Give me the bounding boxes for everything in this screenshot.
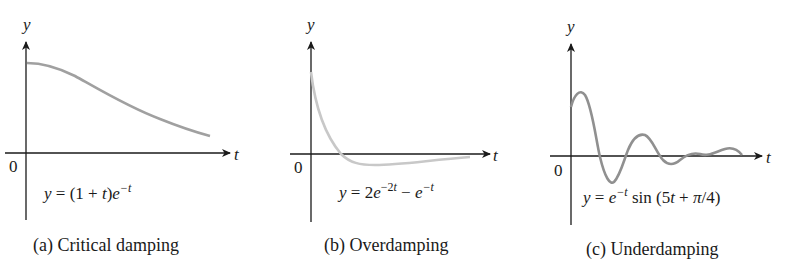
formula-underdamping: y = e−t sin (5t + π/4): [581, 185, 720, 207]
origin-label: 0: [9, 157, 18, 176]
curve-overdamping: [311, 72, 470, 165]
y-axis-label: y: [565, 17, 575, 36]
panel-underdamping: y t 0 y = e−t sin (5t + π/4) (c) Underda…: [550, 17, 772, 260]
formula-critical: y = (1 + t)e−t: [42, 181, 132, 203]
panel-overdamping: y t 0 y = 2e−2t − e−t (b) Overdamping: [290, 15, 499, 256]
y-axis-label: y: [21, 15, 31, 34]
origin-label: 0: [294, 158, 303, 177]
curve-critical: [27, 63, 210, 136]
origin-label: 0: [554, 161, 563, 180]
caption-underdamping: (c) Underdamping: [586, 239, 718, 260]
curve-underdamping: [571, 92, 742, 182]
formula-overdamping: y = 2e−2t − e−t: [337, 180, 435, 202]
caption-critical: (a) Critical damping: [33, 235, 179, 256]
t-axis-label: t: [234, 145, 240, 164]
t-axis-label: t: [493, 146, 499, 165]
caption-overdamping: (b) Overdamping: [324, 235, 448, 256]
y-axis-label: y: [305, 15, 315, 34]
t-axis-label: t: [766, 148, 772, 167]
panel-critical-damping: y t 0 y = (1 + t)e−t (a) Critical dampin…: [5, 15, 240, 256]
damping-figure: y t 0 y = (1 + t)e−t (a) Critical dampin…: [0, 0, 786, 271]
